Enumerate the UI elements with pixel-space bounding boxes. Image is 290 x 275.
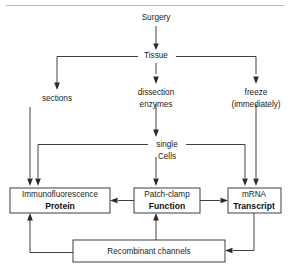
edge-recombinant-to-protein <box>27 213 73 253</box>
node-label-protein-line2: Protein <box>45 201 75 211</box>
node-label-freeze-line1: freeze <box>245 88 268 97</box>
edge-surgery-to-tissue <box>153 26 159 50</box>
node-label-single-cells-line1: single <box>156 140 178 149</box>
node-label-function-line1: Patch-clamp <box>144 190 190 199</box>
edge-single-cells-to-protein <box>35 179 41 187</box>
edge-tissue-to-sections <box>54 80 60 90</box>
edge-single-cells-bus <box>38 145 245 179</box>
node-label-dissection-line1: dissection <box>138 88 175 97</box>
edge-function-to-transcript <box>200 198 228 204</box>
edge-recombinant-to-function <box>153 213 159 240</box>
node-label-sections: sections <box>42 94 72 103</box>
edge-function-to-protein <box>110 198 134 204</box>
node-label-function-line2: Function <box>149 201 185 211</box>
node-label-transcript-line1: mRNA <box>242 190 267 199</box>
node-label-surgery: Surgery <box>142 13 172 22</box>
node-label-dissection-line2: enzymes <box>140 100 173 109</box>
node-label-single-cells-line2: Cells <box>158 152 176 161</box>
edge-sections-to-protein <box>27 107 33 186</box>
node-label-tissue: Tissue <box>144 51 168 60</box>
flowchart-canvas: Surgery Tissue sections dissection enzym… <box>0 0 290 275</box>
node-label-freeze-line2: (immediately) <box>231 100 280 109</box>
edge-single-cells-to-function <box>153 179 159 187</box>
node-label-protein-line1: Immunofluorescence <box>22 190 98 199</box>
edge-tissue-to-dissection <box>153 77 159 85</box>
node-label-recombinant: Recombinant channels <box>107 247 190 256</box>
node-label-transcript-line2: Transcript <box>233 201 275 211</box>
edge-freeze-to-transcript <box>253 104 259 186</box>
edge-tissue-to-freeze <box>253 77 259 85</box>
edge-single-cells-to-transcript <box>242 179 248 187</box>
edge-transcript-to-recombinant <box>225 213 254 253</box>
flowchart-figure: Surgery Tissue sections dissection enzym… <box>0 0 290 275</box>
